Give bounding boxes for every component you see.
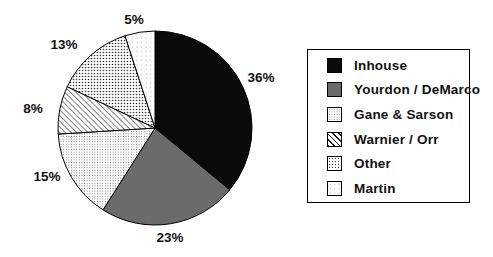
legend-item-yourdon-demarco: Yourdon / DeMarco (308, 78, 469, 103)
legend-item-inhouse: Inhouse (308, 53, 469, 78)
slice-percent-label-yourdon-demarco: 23% (156, 230, 183, 245)
slice-percent-label-inhouse: 36% (247, 70, 274, 85)
legend-item-martin: Martin (308, 176, 469, 201)
legend-label-yourdon-demarco: Yourdon / DeMarco (354, 82, 480, 97)
legend-label-inhouse: Inhouse (354, 58, 407, 73)
legend-swatch-martin-icon (327, 181, 342, 196)
legend-item-other: Other (308, 151, 469, 176)
legend-swatch-inhouse-icon (327, 58, 342, 73)
slice-percent-label-martin: 5% (124, 12, 144, 27)
legend: InhouseYourdon / DeMarcoGane & SarsonWar… (307, 49, 470, 203)
legend-item-gane-sarson: Gane & Sarson (308, 102, 469, 127)
legend-item-warnier-orr: Warnier / Orr (308, 127, 469, 152)
slice-percent-label-other: 13% (50, 37, 77, 52)
legend-swatch-yourdon-demarco-icon (327, 82, 342, 97)
slice-percent-label-gane-sarson: 15% (33, 169, 60, 184)
slice-percent-label-warnier-orr: 8% (23, 101, 43, 116)
legend-label-other: Other (354, 156, 391, 171)
legend-label-warnier-orr: Warnier / Orr (354, 132, 439, 147)
legend-swatch-warnier-orr-icon (327, 132, 342, 147)
legend-swatch-other-icon (327, 156, 342, 171)
legend-label-martin: Martin (354, 181, 396, 196)
legend-label-gane-sarson: Gane & Sarson (354, 107, 453, 122)
pie-chart-figure: 36%23%15%8%13%5% InhouseYourdon / DeMarc… (0, 0, 493, 257)
legend-swatch-gane-sarson-icon (327, 107, 342, 122)
